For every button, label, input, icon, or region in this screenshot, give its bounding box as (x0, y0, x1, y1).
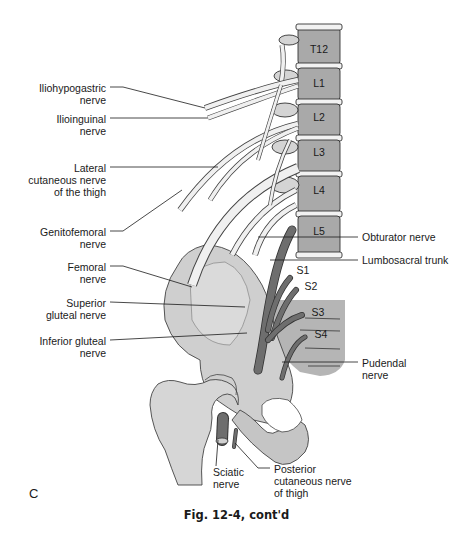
vertebra-label-l1: L1 (306, 77, 332, 89)
vertebra-label-l4: L4 (306, 184, 332, 196)
panel-letter: C (29, 486, 38, 501)
sacral-label-s4: S4 (314, 328, 328, 340)
label-femoral-nerve: Femoral nerve (10, 261, 106, 285)
vertebra-label-l5: L5 (306, 225, 332, 237)
vertebra-label-l3: L3 (306, 146, 332, 158)
label-obturator-nerve: Obturator nerve (362, 231, 436, 243)
sacral-label-s3: S3 (311, 306, 325, 318)
figure-caption: Fig. 12-4, cont'd (0, 508, 473, 522)
label-superior-gluteal-nerve: Superior gluteal nerve (10, 297, 106, 321)
sacral-label-s2: S2 (304, 280, 318, 292)
vertebra-label-t12: T12 (306, 43, 332, 55)
label-pudendal-nerve: Pudendal nerve (362, 357, 406, 381)
obturator-foramen (262, 398, 302, 432)
label-ilioinguinal-nerve: Ilioinguinal nerve (10, 113, 106, 137)
label-posterior-cutaneous-nerve-thigh: Posterior cutaneous nerve of thigh (274, 463, 352, 499)
vertebra-label-l2: L2 (306, 111, 332, 123)
label-lumbosacral-trunk: Lumbosacral trunk (362, 254, 448, 266)
label-sciatic-nerve: Sciatic nerve (213, 466, 244, 490)
label-inferior-gluteal-nerve: Inferior gluteal nerve (10, 335, 106, 359)
label-iliohypogastric-nerve: Iliohypogastric nerve (10, 82, 106, 106)
label-lateral-cutaneous-nerve-thigh: Lateral cutaneous nerve of the thigh (10, 162, 106, 198)
label-genitofemoral-nerve: Genitofemoral nerve (10, 226, 106, 250)
sacral-label-s1: S1 (296, 264, 310, 276)
